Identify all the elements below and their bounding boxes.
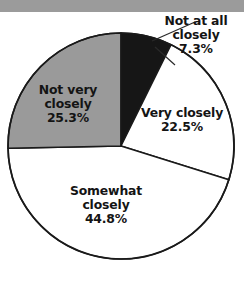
pie-value-very-closely: 22.5% <box>136 120 228 134</box>
pie-label-not-very-closely-line2: closely <box>26 97 110 111</box>
pie-label-very-closely: Very closely 22.5% <box>136 106 228 134</box>
pie-label-not-very-closely-line1: Not very <box>26 83 110 97</box>
pie-value-somewhat-closely: 44.8% <box>56 212 156 226</box>
pie-label-very-closely-line1: Very closely <box>136 106 228 120</box>
pie-label-not-very-closely: Not very closely 25.3% <box>26 83 110 126</box>
pie-value-not-at-all-closely: 7.3% <box>152 42 240 56</box>
pie-label-somewhat-closely: Somewhat closely 44.8% <box>56 184 156 227</box>
pie-label-somewhat-closely-line1: Somewhat <box>56 184 156 198</box>
pie-label-not-at-all-closely-line2: closely <box>152 28 240 42</box>
pie-value-not-very-closely: 25.3% <box>26 111 110 125</box>
pie-label-not-at-all-closely-line1: Not at all <box>152 14 240 28</box>
pie-chart: Not at all closely 7.3% Very closely 22.… <box>0 0 244 281</box>
pie-label-somewhat-closely-line2: closely <box>56 198 156 212</box>
pie-label-not-at-all-closely: Not at all closely 7.3% <box>152 14 240 57</box>
